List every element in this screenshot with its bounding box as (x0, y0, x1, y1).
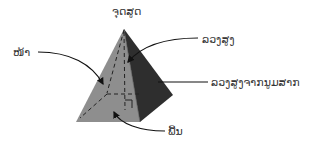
apex-label: ຈຸດສູດ (112, 5, 141, 18)
face-arrow (38, 52, 103, 84)
slant-height-label: ລວງສູງຈາກນູມສາກ (211, 76, 300, 89)
face-label: ໜ້າ (13, 46, 30, 59)
height-label: ລວງສູງ (202, 33, 234, 46)
base-label: ພື້ນ (168, 125, 183, 138)
pyramid-diagram: ຈຸດສູດ ໜ້າ ລວງສູງ ລວງສູງຈາກນູມສາກ ພື້ນ (0, 0, 315, 165)
